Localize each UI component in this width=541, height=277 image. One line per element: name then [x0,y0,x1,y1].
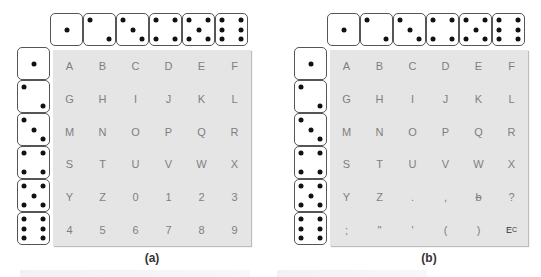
die-pip [64,27,69,32]
die-pip [41,226,46,231]
die-pip [516,17,521,22]
faint-caption-text [20,270,250,277]
top-dice-row [50,13,248,46]
die-pip [298,170,303,175]
die-pip [21,150,26,155]
die-pip [308,127,313,132]
die-pip [87,17,92,22]
die-pip [318,137,323,142]
die-pip [153,17,158,22]
grid-cell: 7 [152,213,185,246]
grid-cell: R [495,115,528,148]
grid-cell: Z [86,181,119,214]
die-face-3 [393,13,426,46]
die-pip [41,203,46,208]
grid-cell: F [495,50,528,83]
grid-cell: Y [53,181,86,214]
grid-cell: EC [495,213,528,246]
die-pip [239,27,244,32]
die-pip [298,117,303,122]
die-pip [298,216,303,221]
die-pip [21,183,26,188]
grid-cell: V [152,148,185,181]
die-pip [496,27,501,32]
grid-cell: C [396,50,429,83]
grid-cell: 0 [119,181,152,214]
die-pip [41,236,46,241]
grid-cell: J [429,83,462,116]
grid-cell: M [53,115,86,148]
die-pip [41,104,46,109]
grid-cell: G [53,83,86,116]
die-pip [483,37,488,42]
die-pip [21,236,26,241]
die-pip [496,17,501,22]
grid-cell: 3 [218,181,251,214]
grid-cell: I [119,83,152,116]
grid-cell: V [429,148,462,181]
grid-cell: R [218,115,251,148]
grid-cell: 1 [152,181,185,214]
die-pip [31,127,36,132]
die-pip [186,37,191,42]
grid-cell: N [86,115,119,148]
die-pip [496,37,501,42]
grid-cell: W [185,148,218,181]
grid-cell: T [86,148,119,181]
die-face-6 [17,212,50,245]
grid-cell: P [152,115,185,148]
panel-caption: (a) [53,251,251,265]
die-face-2 [17,80,50,113]
die-pip [417,37,422,42]
grid-cell: H [363,83,396,116]
grid-cell: J [152,83,185,116]
grid-cell: E [462,50,495,83]
die-pip [516,27,521,32]
die-face-1 [294,47,327,80]
grid-cell: E [185,50,218,83]
faint-caption-text [277,270,427,277]
die-pip [308,61,313,66]
die-pip [397,17,402,22]
die-pip [298,183,303,188]
grid-cell: Y [330,181,363,214]
die-pip [298,84,303,89]
die-pip [483,17,488,22]
grid-cell: I [396,83,429,116]
die-pip [364,17,369,22]
die-pip [318,104,323,109]
die-pip [206,17,211,22]
die-pip [173,17,178,22]
grid-cell: , [429,181,462,214]
grid-cell: T [363,148,396,181]
die-pip [120,17,125,22]
grid-cell: W [462,148,495,181]
grid-cell: D [429,50,462,83]
die-pip [21,84,26,89]
grid-cell: ? [495,181,528,214]
die-pip [298,236,303,241]
die-pip [450,37,455,42]
die-face-1 [50,13,83,46]
die-face-6 [294,212,327,245]
grid-cell: ) [462,213,495,246]
die-pip [318,150,323,155]
panel-b: ABCDEFGHIJKLMNOPQRSTUVWXYZ.,b?;"'()EC (b… [277,0,541,277]
die-pip [21,226,26,231]
die-pip [41,170,46,175]
die-pip [341,27,346,32]
grid-cell: 4 [53,213,86,246]
die-pip [140,37,145,42]
die-pip [21,203,26,208]
grid-cell: H [86,83,119,116]
grid-cell: F [218,50,251,83]
die-face-5 [459,13,492,46]
grid-cell: L [495,83,528,116]
die-pip [463,37,468,42]
die-pip [318,170,323,175]
grid-cell: B [86,50,119,83]
die-pip [318,236,323,241]
die-pip [41,150,46,155]
die-pip [430,37,435,42]
die-pip [450,17,455,22]
